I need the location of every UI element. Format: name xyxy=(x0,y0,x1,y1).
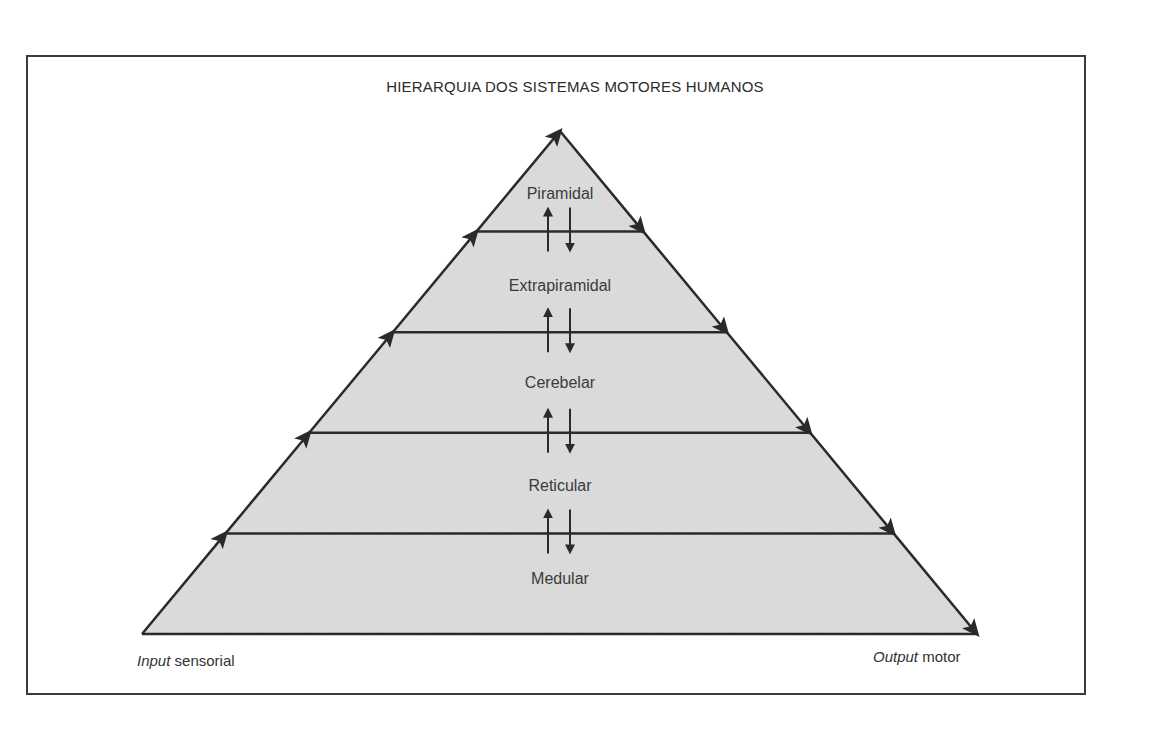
output-rest: motor xyxy=(918,648,961,665)
output-italic: Output xyxy=(873,648,918,665)
input-rest: sensorial xyxy=(170,652,234,669)
level-label-piramidal: Piramidal xyxy=(527,185,594,202)
level-label-reticular: Reticular xyxy=(528,477,592,494)
input-sensorial-label: Input sensorial xyxy=(137,652,235,669)
level-label-extrapiramidal: Extrapiramidal xyxy=(509,277,611,294)
input-italic: Input xyxy=(137,652,170,669)
level-label-medular: Medular xyxy=(531,570,589,587)
level-label-cerebelar: Cerebelar xyxy=(525,374,596,391)
output-motor-label: Output motor xyxy=(873,648,961,665)
pyramid-diagram: PiramidalExtrapiramidalCerebelarReticula… xyxy=(0,0,1150,738)
